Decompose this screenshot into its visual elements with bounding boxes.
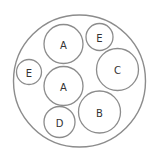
circle-e: E bbox=[86, 24, 113, 51]
circle-a: A bbox=[44, 25, 83, 64]
circle-label: E bbox=[26, 68, 32, 79]
circle-label: B bbox=[96, 108, 103, 119]
circle-label: D bbox=[56, 118, 64, 129]
circle-d: D bbox=[44, 107, 75, 138]
circle-label: A bbox=[60, 40, 67, 51]
circle-c: C bbox=[97, 49, 139, 91]
circle-a: A bbox=[44, 67, 83, 106]
circle-b: B bbox=[79, 91, 121, 133]
circle-e: E bbox=[17, 60, 42, 85]
circle-diagram: AEECABD bbox=[0, 0, 153, 150]
diagram-canvas: AEECABD bbox=[0, 0, 153, 150]
circle-label: E bbox=[96, 33, 102, 44]
circle-label: C bbox=[114, 65, 121, 76]
circle-label: A bbox=[60, 82, 67, 93]
